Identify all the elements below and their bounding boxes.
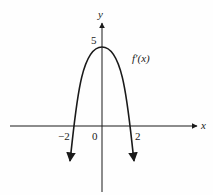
graph-canvas: y x 5 −2 0 2 f′(x) (0, 0, 213, 195)
x-tick-neg2: −2 (58, 130, 70, 142)
y-axis-label: y (97, 8, 103, 20)
x-axis-label: x (200, 119, 206, 131)
graph-figure: y x 5 −2 0 2 f′(x) (0, 0, 213, 195)
curve-label: f′(x) (132, 52, 150, 65)
x-tick-2: 2 (135, 130, 141, 142)
x-tick-0: 0 (92, 130, 98, 142)
y-tick-5: 5 (91, 34, 97, 46)
